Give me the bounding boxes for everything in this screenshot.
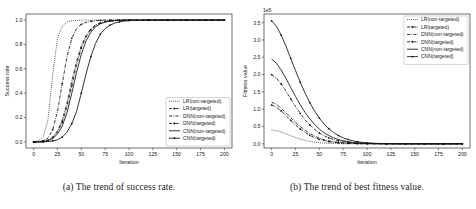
y-tick-label: 0.0 xyxy=(253,141,260,147)
series-marker xyxy=(385,143,387,145)
series-marker xyxy=(423,143,425,145)
y-axis-title: Success rate xyxy=(4,65,10,96)
series-marker xyxy=(442,143,444,145)
series-marker xyxy=(404,143,406,145)
series-marker xyxy=(224,19,226,21)
legend-marker xyxy=(174,108,176,110)
series-marker xyxy=(80,92,82,94)
y-tick-label: 2.5 xyxy=(253,54,260,60)
legend-label: DNN(targeted) xyxy=(183,120,216,126)
series-marker xyxy=(147,19,149,21)
y-tick-label: 0.4 xyxy=(15,90,22,96)
legend-label: DNN(non-targeted) xyxy=(421,31,464,37)
legend-label: LR(non-targeted) xyxy=(183,98,221,104)
series-marker xyxy=(128,20,130,22)
x-tick-label: 0 xyxy=(32,151,35,157)
x-tick-label: 150 xyxy=(172,151,181,157)
y-tick-label: 1.5 xyxy=(253,89,260,95)
x-tick-label: 150 xyxy=(410,151,419,157)
series-marker xyxy=(338,140,340,142)
y-tick-label: 0.8 xyxy=(15,41,22,47)
x-tick-label: 175 xyxy=(196,151,205,157)
series-marker xyxy=(271,20,273,22)
y-tick-label: 3.0 xyxy=(253,37,260,43)
legend-label: CNN(non-targeted) xyxy=(183,128,226,134)
series-marker xyxy=(318,138,320,140)
series-marker xyxy=(52,129,54,131)
x-tick-label: 0 xyxy=(270,151,273,157)
series-marker xyxy=(290,119,292,121)
x-axis-title: Iteration xyxy=(119,159,138,165)
series-marker xyxy=(90,20,92,22)
panel-a-success-rate: 02550751001251501752000.00.20.40.60.81.0… xyxy=(0,0,238,178)
axis-exponent-label: 1e5 xyxy=(263,7,272,13)
x-tick-label: 100 xyxy=(363,151,372,157)
x-tick-label: 25 xyxy=(55,151,61,157)
legend-marker xyxy=(412,26,414,28)
x-tick-label: 200 xyxy=(220,151,229,157)
caption-a: (a) The trend of success rate. xyxy=(0,178,238,209)
series-marker xyxy=(462,143,464,145)
x-tick-label: 125 xyxy=(149,151,158,157)
series-marker xyxy=(290,57,292,59)
x-tick-label: 75 xyxy=(102,151,108,157)
series-marker xyxy=(299,81,301,83)
series-marker xyxy=(109,24,111,26)
series-marker xyxy=(185,19,187,21)
series-marker xyxy=(280,83,282,85)
series-marker xyxy=(204,19,206,21)
series-marker xyxy=(100,19,102,21)
figure-container: 02550751001251501752000.00.20.40.60.81.0… xyxy=(0,0,476,209)
series-marker xyxy=(119,21,121,23)
chart-success-rate: 02550751001251501752000.00.20.40.60.81.0… xyxy=(0,0,238,178)
series-marker xyxy=(42,141,44,143)
figure-captions: (a) The trend of success rate. (b) The t… xyxy=(0,178,476,209)
x-tick-label: 75 xyxy=(340,151,346,157)
series-marker xyxy=(90,56,92,58)
legend-label: LR(non-targeted) xyxy=(421,16,459,22)
y-tick-label: 0.0 xyxy=(15,139,22,145)
series-marker xyxy=(33,141,35,143)
series-marker xyxy=(100,33,102,35)
series-marker xyxy=(71,123,73,125)
series-marker xyxy=(271,74,273,76)
legend-marker xyxy=(174,137,176,139)
legend-label: CNN(non-targeted) xyxy=(421,46,464,52)
series-marker xyxy=(271,104,273,106)
series-marker xyxy=(61,83,63,85)
series-marker xyxy=(61,136,63,138)
series-marker xyxy=(318,132,320,134)
legend-label: CNN(targeted) xyxy=(183,135,216,141)
y-tick-label: 1.0 xyxy=(253,106,260,112)
y-tick-label: 2.0 xyxy=(253,71,260,77)
panel-b-fitness-value: 02550751001251501752000.00.51.01.52.02.5… xyxy=(238,0,476,178)
series-marker xyxy=(318,117,320,119)
caption-b: (b) The trend of best fitness value. xyxy=(238,178,476,209)
series-marker xyxy=(90,29,92,31)
series-marker xyxy=(61,122,63,124)
series-marker xyxy=(299,128,301,130)
series-marker xyxy=(280,34,282,36)
series-marker xyxy=(71,38,73,40)
x-tick-label: 25 xyxy=(293,151,299,157)
series-marker xyxy=(338,135,340,137)
series-marker xyxy=(309,124,311,126)
chart-fitness-value: 02550751001251501752000.00.51.01.52.02.5… xyxy=(238,0,476,178)
y-tick-label: 1.0 xyxy=(15,17,22,23)
legend-label: CNN(targeted) xyxy=(421,53,454,59)
x-tick-label: 175 xyxy=(434,151,443,157)
legend-label: LR(targeted) xyxy=(183,105,211,111)
y-axis-title: Fitness value xyxy=(242,65,248,97)
series-marker xyxy=(80,47,82,49)
series-marker xyxy=(80,24,82,26)
series-marker xyxy=(71,85,73,87)
series-marker xyxy=(166,19,168,21)
legend-marker xyxy=(174,122,176,124)
series-marker xyxy=(309,102,311,104)
series-marker xyxy=(357,141,359,143)
x-tick-label: 125 xyxy=(387,151,396,157)
x-axis-title: Iteration xyxy=(357,159,376,165)
y-tick-label: 0.5 xyxy=(253,123,260,129)
y-tick-label: 3.5 xyxy=(253,20,260,26)
legend-marker xyxy=(412,56,414,58)
